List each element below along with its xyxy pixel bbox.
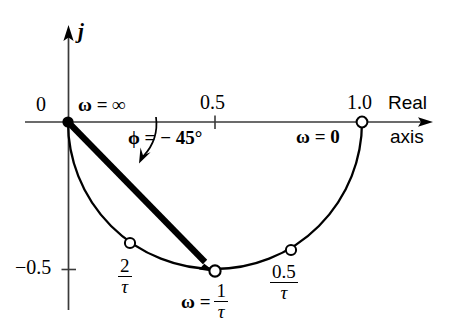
real-tick-label-1p0: 1.0 xyxy=(347,92,372,112)
imag-tick-label-neg0p5: −0.5 xyxy=(15,257,51,277)
marker-omega-1-over-tau xyxy=(209,265,220,276)
marker-omega-infinity xyxy=(62,116,73,127)
real-axis-label-line1: Real xyxy=(388,93,427,112)
marker-omega-zero xyxy=(357,117,368,128)
label-2-over-tau-denominator: τ xyxy=(118,276,132,297)
label-0p5-over-tau-numerator: 0.5 xyxy=(270,262,298,282)
omega-zero-label: ω = 0 xyxy=(296,127,340,146)
real-tick-label-0p5: 0.5 xyxy=(200,92,225,112)
label-omega-1-over-tau-numerator: 1 xyxy=(214,281,228,301)
plot-canvas xyxy=(0,0,458,318)
origin-label: 0 xyxy=(36,94,46,114)
imaginary-axis-label: j xyxy=(78,21,84,42)
label-omega-1-over-tau-denominator: τ xyxy=(214,301,228,318)
label-2-over-tau: 2 τ xyxy=(118,256,132,297)
real-axis-label-line2: axis xyxy=(390,127,424,146)
omega-infinity-label: ω = ∞ xyxy=(78,95,126,114)
label-0p5-over-tau-denominator: τ xyxy=(270,282,298,303)
marker-2-over-tau xyxy=(125,238,135,248)
label-omega-1-over-tau: ω = 1 τ xyxy=(181,281,228,318)
marker-0p5-over-tau xyxy=(286,245,296,255)
label-omega-1-over-tau-prefix: ω = xyxy=(181,292,210,311)
nyquist-plot-figure: j 0 ω = ∞ 0.5 1.0 ω = 0 Real axis ϕ = − … xyxy=(0,0,458,318)
label-0p5-over-tau: 0.5 τ xyxy=(270,262,298,303)
phase-angle-label: ϕ = − 45° xyxy=(128,128,202,147)
label-2-over-tau-numerator: 2 xyxy=(118,256,132,276)
